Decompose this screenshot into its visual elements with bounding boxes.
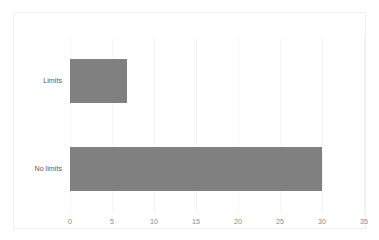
category-label: No limits: [14, 164, 62, 173]
x-tick-label: 5: [100, 217, 124, 226]
chart-container: LimitsNo limits 05101520253035: [13, 12, 366, 229]
x-tick-label: 10: [142, 217, 166, 226]
bar: [70, 59, 127, 103]
x-tick-label: 30: [310, 217, 334, 226]
plot-area: [70, 37, 364, 213]
category-label: Limits: [14, 76, 62, 85]
x-tick-label: 25: [268, 217, 292, 226]
gridline: [364, 37, 365, 213]
gridline: [322, 37, 323, 213]
x-tick-label: 20: [226, 217, 250, 226]
bar: [70, 147, 322, 191]
x-tick-label: 35: [352, 217, 376, 226]
x-tick-label: 0: [58, 217, 82, 226]
x-tick-label: 15: [184, 217, 208, 226]
